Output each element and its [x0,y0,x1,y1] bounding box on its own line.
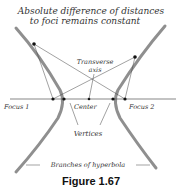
focus-2-point [123,97,126,100]
title-line-2: to foci remains constant [30,16,141,26]
left-branch [16,28,63,172]
right-vertex-leader [100,103,110,125]
branches-label: Branches of hyperbola [50,161,126,169]
title-line-1: Absolute difference of distances [17,6,165,16]
right-branch [115,26,165,168]
focus-1-label: Focus 1 [3,103,29,111]
transverse-axis-label: Transverse [77,58,114,66]
center-leader [89,84,92,99]
point-on-right-branch [133,55,137,59]
hyperbola-diagram: Absolute difference of distances to foci… [0,0,182,191]
point-on-left-branch [32,42,36,46]
center-label: Center [74,103,97,111]
focus-1-point [51,97,54,100]
left-vertex-point [62,97,65,100]
focus-2-label: Focus 2 [128,103,154,111]
transverse-axis-label-2: axis [89,66,103,74]
vertices-label: Vertices [74,130,103,138]
right-vertex-point [111,97,114,100]
figure-caption: Figure 1.67 [0,175,182,187]
